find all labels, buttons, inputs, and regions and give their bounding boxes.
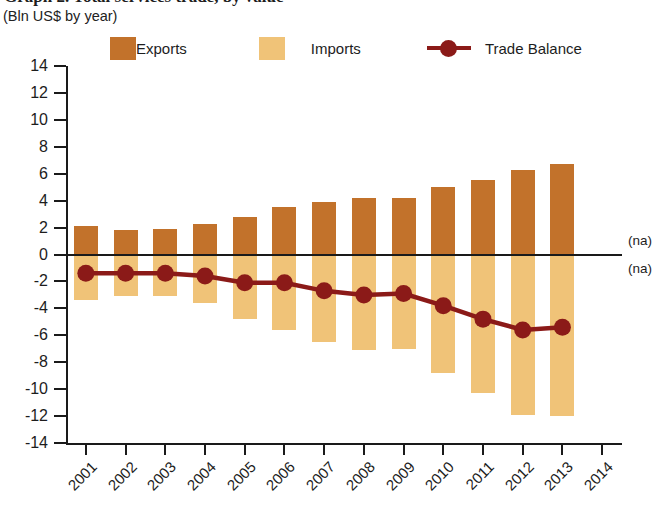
y-tick-label: 2: [2, 219, 48, 237]
legend-item-trade-balance: Trade Balance: [427, 37, 582, 59]
trade-balance-point: [197, 268, 214, 285]
y-tick-label: -8: [2, 353, 48, 371]
x-tick-label: 2012: [491, 458, 537, 504]
y-tick-label: -12: [2, 407, 48, 425]
x-tick-label: 2010: [411, 458, 457, 504]
trade-balance-point: [117, 265, 134, 282]
x-tick-label: 2003: [133, 458, 179, 504]
x-tick-label: 2004: [173, 458, 219, 504]
chart-title: Graph 2. Total services trade, by value: [4, 0, 284, 7]
legend-item-exports: Exports: [110, 37, 187, 60]
legend-line-marker-icon: [427, 37, 471, 59]
x-tick: [283, 443, 285, 455]
x-tick: [561, 443, 563, 455]
y-tick: [54, 227, 66, 229]
x-tick: [323, 443, 325, 455]
x-tick: [125, 443, 127, 455]
trade-balance-point: [77, 265, 94, 282]
x-tick: [204, 443, 206, 455]
x-tick: [244, 443, 246, 455]
y-tick: [54, 200, 66, 202]
trade-balance-point: [316, 282, 333, 299]
legend-swatch-imports-icon: [259, 37, 285, 60]
x-tick-label: 2007: [292, 458, 338, 504]
x-axis-line: [66, 443, 622, 445]
y-tick: [54, 415, 66, 417]
plot-area: 14121086420-2-4-6-8-10-12-14 20012002200…: [66, 66, 622, 443]
legend-swatch-exports-icon: [110, 37, 136, 60]
y-tick: [54, 119, 66, 121]
trade-balance-point: [435, 297, 452, 314]
y-tick: [54, 92, 66, 94]
x-tick: [482, 443, 484, 455]
y-tick-label: 4: [2, 192, 48, 210]
legend-item-imports: Imports: [259, 37, 361, 60]
x-tick: [363, 443, 365, 455]
trade-balance-point: [554, 319, 571, 336]
legend-label-exports: Exports: [136, 40, 187, 57]
annotation-na-below: (na): [628, 261, 652, 276]
y-tick-label: -6: [2, 326, 48, 344]
y-tick-label: 10: [2, 111, 48, 129]
y-tick: [54, 388, 66, 390]
legend-label-imports: Imports: [311, 40, 361, 57]
y-tick: [54, 307, 66, 309]
trade-balance-point: [276, 274, 293, 291]
trade-balance-point: [236, 274, 253, 291]
y-tick-label: -2: [2, 272, 48, 290]
y-tick-label: 14: [2, 57, 48, 75]
x-tick-label: 2001: [54, 458, 100, 504]
x-tick: [522, 443, 524, 455]
y-tick-label: 12: [2, 84, 48, 102]
y-tick: [54, 280, 66, 282]
y-tick-label: -14: [2, 434, 48, 452]
trade-balance-point: [157, 265, 174, 282]
y-tick-label: 6: [2, 165, 48, 183]
x-tick: [85, 443, 87, 455]
x-tick-label: 2011: [451, 458, 497, 504]
x-tick: [164, 443, 166, 455]
x-tick: [403, 443, 405, 455]
trade-balance-point: [395, 285, 412, 302]
x-tick-label: 2008: [332, 458, 378, 504]
x-tick-label: 2009: [372, 458, 418, 504]
x-tick-label: 2005: [213, 458, 259, 504]
x-tick-label: 2002: [94, 458, 140, 504]
x-tick: [601, 443, 603, 455]
y-tick: [54, 442, 66, 444]
y-tick: [54, 334, 66, 336]
annotation-na-above: (na): [628, 233, 652, 248]
y-tick: [54, 361, 66, 363]
x-tick-label: 2006: [252, 458, 298, 504]
y-tick: [54, 146, 66, 148]
legend-label-trade-balance: Trade Balance: [485, 40, 582, 57]
x-tick: [442, 443, 444, 455]
trade-balance-point: [475, 311, 492, 328]
y-tick-label: -10: [2, 380, 48, 398]
x-tick-label: 2014: [570, 458, 616, 504]
y-tick-label: 8: [2, 138, 48, 156]
y-tick-label: -4: [2, 299, 48, 317]
x-tick-label: 2013: [530, 458, 576, 504]
chart-subtitle: (Bln US$ by year): [3, 8, 117, 24]
y-tick: [54, 65, 66, 67]
chart-legend: Exports Imports Trade Balance: [110, 36, 582, 60]
trade-balance-line: [66, 66, 622, 443]
trade-balance-point: [355, 286, 372, 303]
y-tick: [54, 254, 66, 256]
trade-balance-point: [514, 321, 531, 338]
y-tick: [54, 173, 66, 175]
y-tick-label: 0: [2, 246, 48, 264]
